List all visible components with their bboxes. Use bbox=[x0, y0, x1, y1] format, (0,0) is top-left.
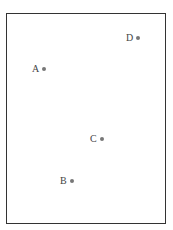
point-d-label: D bbox=[126, 32, 133, 44]
point-c-label: C bbox=[90, 133, 97, 145]
point-c-dot bbox=[100, 137, 104, 141]
point-d-dot bbox=[136, 36, 140, 40]
point-b: B bbox=[60, 175, 74, 187]
point-b-label: B bbox=[60, 175, 67, 187]
point-a-dot bbox=[42, 67, 46, 71]
point-a-label: A bbox=[32, 63, 39, 75]
point-a: A bbox=[32, 63, 46, 75]
diagram-frame bbox=[6, 13, 166, 224]
point-b-dot bbox=[70, 179, 74, 183]
point-c: C bbox=[90, 133, 104, 145]
point-d: D bbox=[126, 32, 140, 44]
